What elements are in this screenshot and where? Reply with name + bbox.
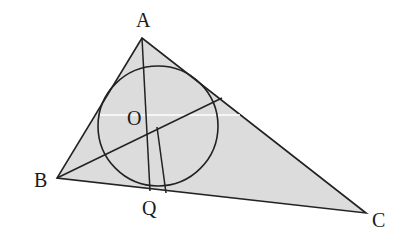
triangle-incircle-diagram: A B C O Q [0, 0, 411, 243]
label-q: Q [142, 197, 157, 219]
triangle-abc [57, 38, 366, 213]
label-c: C [372, 209, 385, 231]
label-a: A [136, 9, 151, 31]
label-b: B [34, 169, 47, 191]
label-o: O [127, 107, 141, 129]
